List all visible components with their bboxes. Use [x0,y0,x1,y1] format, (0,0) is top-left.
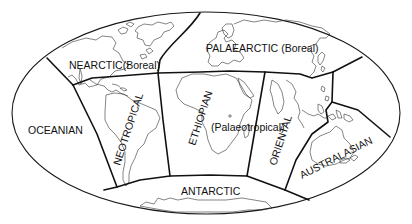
label-antarctic: ANTARCTIC [181,185,241,197]
coast-scandinavia [222,24,234,38]
label-palaearctic: PALAEARCTIC(Boreal) [206,42,319,54]
coast-antarctica [140,198,272,212]
coast-greenland [135,22,174,46]
boundary-boreal-tropical [73,71,333,85]
coast-japan [318,52,325,72]
label-ethiopian: ETHIOPIAN [185,89,214,147]
coast-caribbean [112,84,127,91]
boundary-nearctic-palaearctic [158,13,200,73]
coast-india [270,80,284,114]
boundary-neotropical-oceanian [73,85,117,187]
coast-philippines [321,86,329,101]
label-oceanian: OCEANIAN [28,124,83,136]
label-neotropical: NEOTROPICAL [110,91,145,166]
coast-lake-victoria [229,115,231,117]
coast-arctic-islands [118,22,153,59]
realms-map: NEARCTIC(Boreal) PALAEARCTIC(Boreal) NEO… [0,0,412,224]
label-ethiopian-qualifier: (Palaeotropical) [211,121,285,133]
boundary-palaearctic-east [333,57,362,72]
label-australasian: AUSTRALASIAN [297,134,374,181]
label-nearctic: NEARCTIC(Boreal) [69,59,160,71]
realm-labels: NEARCTIC(Boreal) PALAEARCTIC(Boreal) NEO… [28,42,374,197]
coast-arabia [238,78,254,98]
boundary-australasian-oceanian [332,102,390,137]
boundary-neotropical-ethiopian [158,73,170,176]
